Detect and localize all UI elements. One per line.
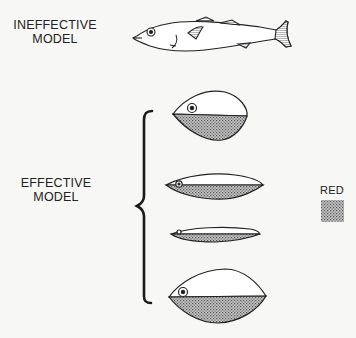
legend-red-swatch — [321, 200, 344, 222]
round-model-icon — [173, 91, 247, 140]
realistic-fish-icon — [133, 17, 291, 51]
fish-models-diagram — [0, 0, 356, 338]
elongated-model-icon — [166, 174, 263, 199]
large-oval-model-icon — [169, 269, 266, 323]
thin-model-icon — [171, 227, 260, 242]
grouping-brace — [137, 111, 152, 303]
